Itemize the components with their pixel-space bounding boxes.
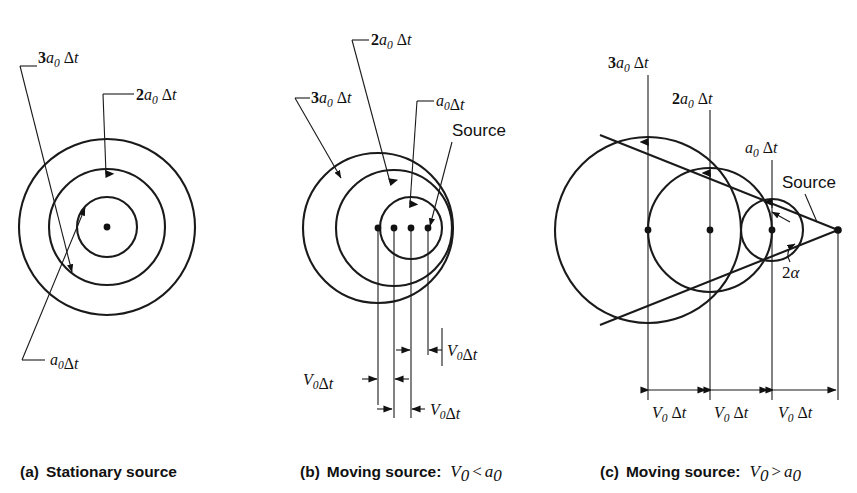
caption-c-text: Moving source:	[626, 463, 741, 480]
caption-b-text: Moving source:	[327, 463, 442, 480]
label-b-source: Source	[452, 121, 506, 140]
label-c-source: Source	[782, 173, 836, 192]
caption-b-prefix: (b)	[300, 463, 320, 480]
source-point-a	[104, 224, 111, 231]
figure-root: 3a0 Δt 2a0 Δt a0Δt (a)Stationary source	[0, 0, 857, 493]
caption-a-text: Stationary source	[46, 463, 177, 480]
label-c-angle: 2α	[782, 263, 801, 282]
caption-c-prefix: (c)	[600, 463, 619, 480]
caption-a-prefix: (a)	[20, 463, 39, 480]
figure-svg: 3a0 Δt 2a0 Δt a0Δt (a)Stationary source	[0, 0, 857, 493]
